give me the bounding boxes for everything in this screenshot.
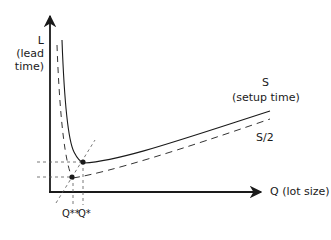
q-star-label: Q*: [78, 207, 91, 220]
curve-s2-steep: [57, 45, 73, 178]
diagonal-guide: [56, 140, 95, 203]
x-axis-label: Q (lot size): [270, 185, 330, 198]
y-axis-symbol: L: [6, 34, 44, 47]
point-q-double-star: [69, 174, 74, 179]
point-q-star: [80, 159, 85, 164]
y-axis-label-line2: time): [6, 60, 44, 73]
curve-s-sublabel: (setup time): [232, 91, 300, 104]
y-axis-label: L (lead time): [6, 34, 44, 73]
curve-s-label: S: [262, 76, 269, 89]
y-axis-label-line1: (lead: [6, 47, 44, 60]
curve-s2-label: S/2: [256, 131, 274, 144]
curve-s2: [73, 119, 270, 178]
